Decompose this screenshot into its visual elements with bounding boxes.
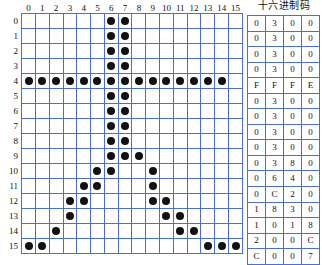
grid-cell-off[interactable] [201,89,215,104]
grid-cell-off[interactable] [160,89,174,104]
grid-cell-off[interactable] [77,89,91,104]
grid-cell-off[interactable] [91,194,105,209]
grid-cell-off[interactable] [201,29,215,44]
grid-cell-off[interactable] [91,134,105,149]
grid-cell-off[interactable] [63,44,77,59]
grid-cell-off[interactable] [173,119,187,134]
grid-cell-on[interactable] [146,164,160,179]
grid-cell-off[interactable] [160,134,174,149]
grid-cell-off[interactable] [63,14,77,29]
grid-cell-off[interactable] [132,44,146,59]
grid-cell-off[interactable] [77,119,91,134]
grid-cell-off[interactable] [35,164,49,179]
grid-cell-on[interactable] [35,74,49,89]
grid-cell-off[interactable] [132,89,146,104]
grid-cell-off[interactable] [173,44,187,59]
grid-cell-on[interactable] [118,134,132,149]
grid-cell-off[interactable] [63,104,77,119]
grid-cell-off[interactable] [160,44,174,59]
grid-cell-off[interactable] [173,179,187,194]
grid-cell-off[interactable] [187,59,201,74]
grid-cell-off[interactable] [49,134,63,149]
grid-cell-off[interactable] [201,119,215,134]
grid-cell-off[interactable] [35,134,49,149]
grid-cell-on[interactable] [118,104,132,119]
grid-cell-off[interactable] [132,179,146,194]
grid-cell-off[interactable] [201,224,215,239]
grid-cell-on[interactable] [173,224,187,239]
grid-cell-off[interactable] [77,44,91,59]
grid-cell-off[interactable] [229,179,243,194]
grid-cell-off[interactable] [35,179,49,194]
grid-cell-off[interactable] [49,239,63,254]
grid-cell-off[interactable] [229,14,243,29]
grid-cell-on[interactable] [104,119,118,134]
grid-cell-on[interactable] [146,179,160,194]
grid-cell-off[interactable] [160,104,174,119]
grid-cell-on[interactable] [91,74,105,89]
grid-cell-off[interactable] [229,224,243,239]
grid-cell-off[interactable] [35,194,49,209]
grid-cell-off[interactable] [49,209,63,224]
grid-cell-off[interactable] [146,149,160,164]
grid-cell-off[interactable] [146,239,160,254]
grid-cell-on[interactable] [22,239,36,254]
grid-cell-on[interactable] [91,164,105,179]
grid-cell-off[interactable] [35,224,49,239]
grid-cell-on[interactable] [104,44,118,59]
grid-cell-off[interactable] [146,209,160,224]
grid-cell-off[interactable] [49,59,63,74]
grid-cell-off[interactable] [187,194,201,209]
grid-cell-on[interactable] [118,149,132,164]
grid-cell-on[interactable] [49,74,63,89]
grid-cell-off[interactable] [63,224,77,239]
grid-cell-off[interactable] [91,14,105,29]
grid-cell-off[interactable] [49,29,63,44]
grid-cell-off[interactable] [77,59,91,74]
grid-cell-off[interactable] [63,149,77,164]
grid-cell-on[interactable] [118,29,132,44]
grid-cell-off[interactable] [215,119,229,134]
grid-cell-on[interactable] [132,149,146,164]
grid-cell-off[interactable] [22,194,36,209]
grid-cell-off[interactable] [118,164,132,179]
grid-cell-off[interactable] [229,194,243,209]
grid-cell-off[interactable] [132,119,146,134]
grid-cell-on[interactable] [201,74,215,89]
grid-cell-off[interactable] [229,149,243,164]
grid-cell-on[interactable] [187,74,201,89]
grid-cell-off[interactable] [173,59,187,74]
grid-cell-on[interactable] [22,74,36,89]
grid-cell-off[interactable] [215,89,229,104]
grid-cell-off[interactable] [91,239,105,254]
grid-cell-off[interactable] [118,194,132,209]
grid-cell-off[interactable] [160,179,174,194]
grid-cell-off[interactable] [49,14,63,29]
grid-cell-on[interactable] [132,74,146,89]
grid-cell-on[interactable] [104,134,118,149]
grid-cell-off[interactable] [160,149,174,164]
grid-cell-off[interactable] [22,89,36,104]
grid-cell-off[interactable] [132,239,146,254]
grid-cell-off[interactable] [173,194,187,209]
grid-cell-off[interactable] [173,29,187,44]
grid-cell-off[interactable] [146,59,160,74]
grid-cell-on[interactable] [63,209,77,224]
grid-cell-off[interactable] [229,119,243,134]
grid-cell-on[interactable] [146,194,160,209]
grid-cell-off[interactable] [35,104,49,119]
grid-cell-off[interactable] [173,149,187,164]
grid-cell-off[interactable] [77,239,91,254]
grid-cell-off[interactable] [63,59,77,74]
grid-cell-off[interactable] [160,119,174,134]
grid-cell-off[interactable] [173,164,187,179]
grid-cell-off[interactable] [22,149,36,164]
grid-cell-off[interactable] [187,209,201,224]
grid-cell-off[interactable] [215,44,229,59]
grid-cell-off[interactable] [215,104,229,119]
grid-cell-off[interactable] [22,164,36,179]
grid-cell-off[interactable] [187,89,201,104]
grid-cell-off[interactable] [173,14,187,29]
grid-cell-off[interactable] [91,224,105,239]
grid-cell-off[interactable] [229,164,243,179]
